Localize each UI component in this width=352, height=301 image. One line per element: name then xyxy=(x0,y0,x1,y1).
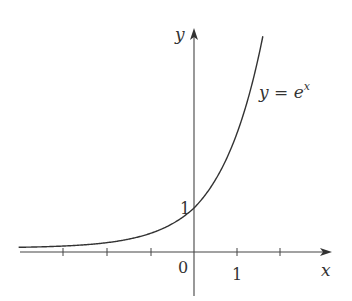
y-tick-label-1: 1 xyxy=(180,199,190,218)
exp-curve xyxy=(19,36,263,247)
exponential-chart: y x 0 1 1 y = ex xyxy=(0,0,352,301)
origin-label: 0 xyxy=(178,258,188,277)
x-axis-label: x xyxy=(321,260,331,280)
x-tick-label-1: 1 xyxy=(232,265,242,284)
y-axis-label: y xyxy=(174,24,185,44)
curve-annotation: y = ex xyxy=(258,80,311,102)
